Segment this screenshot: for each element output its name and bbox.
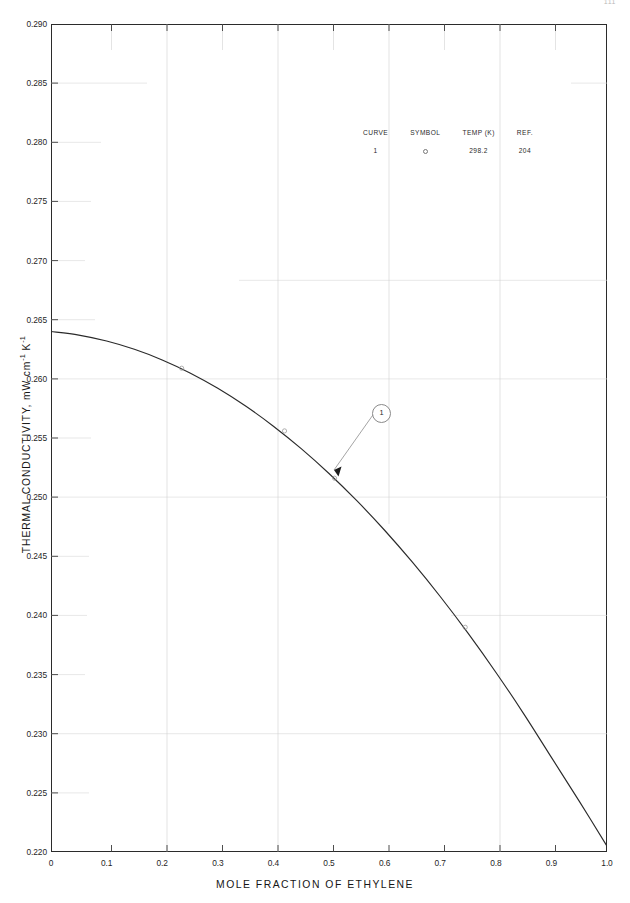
x-tick-label: 0.3 — [212, 858, 223, 868]
legend-header-ref: REF. — [506, 124, 544, 142]
callout-leader-line — [334, 412, 375, 477]
y-axis-title-exponent-1: -1 — [18, 354, 27, 360]
y-tick-label: 0.280 — [3, 137, 47, 147]
x-tick-label: 0.7 — [435, 858, 446, 868]
legend-cell-symbol — [399, 142, 451, 160]
x-tick-label: 0.9 — [546, 858, 557, 868]
x-axis-title: MOLE FRACTION OF ETHYLENE — [0, 879, 630, 890]
page-number: 111 — [604, 0, 616, 5]
x-tick-label: 0.8 — [490, 858, 501, 868]
x-tick-label: 0.6 — [379, 858, 390, 868]
y-tick-label: 0.275 — [3, 196, 47, 206]
legend-header-curve: CURVE — [352, 124, 399, 142]
y-tick-label: 0.235 — [3, 670, 47, 680]
y-axis-title-text: THERMAL CONDUCTIVITY, mW cm — [21, 361, 32, 553]
y-axis-title-mid: K — [21, 343, 32, 355]
legend-grid: CURVE SYMBOL TEMP (K) REF. 1 298.2 204 — [352, 124, 544, 160]
legend-cell-curve: 1 — [352, 142, 399, 160]
gridlines-horizontal — [51, 83, 607, 793]
data-curve-1 — [51, 332, 607, 847]
y-tick-label: 0.230 — [3, 729, 47, 739]
legend-header-row: CURVE SYMBOL TEMP (K) REF. — [352, 124, 544, 142]
x-tick-label: 1.0 — [601, 858, 612, 868]
legend-header-symbol: SYMBOL — [399, 124, 451, 142]
x-tick-label: 0.5 — [323, 858, 334, 868]
figure-container: 111 0.290 0.285 0.280 0.275 0.270 0.265 … — [0, 0, 630, 903]
legend-cell-temp: 298.2 — [451, 142, 505, 160]
x-tick-label: 0.1 — [101, 858, 112, 868]
y-axis-title-exponent-2: -1 — [18, 336, 27, 342]
legend-header-temp: TEMP (K) — [451, 124, 505, 142]
data-point-marker — [282, 429, 286, 433]
y-tick-label: 0.220 — [3, 847, 47, 857]
x-tick-label: 0.2 — [157, 858, 168, 868]
y-axis-title: THERMAL CONDUCTIVITY, mW cm-1 K-1 — [18, 245, 31, 645]
circle-marker-icon — [423, 149, 428, 154]
curve-number-callout: 1 — [372, 404, 391, 423]
legend-row: 1 298.2 204 — [352, 142, 544, 160]
legend-table: CURVE SYMBOL TEMP (K) REF. 1 298.2 204 — [352, 124, 544, 160]
legend-cell-ref: 204 — [506, 142, 544, 160]
y-tick-label: 0.225 — [3, 788, 47, 798]
x-tick-label: 0.4 — [268, 858, 279, 868]
data-point-markers — [180, 366, 468, 629]
y-tick-label: 0.285 — [3, 78, 47, 88]
y-tick-label: 0.290 — [3, 19, 47, 29]
x-tick-label: 0 — [49, 858, 54, 868]
